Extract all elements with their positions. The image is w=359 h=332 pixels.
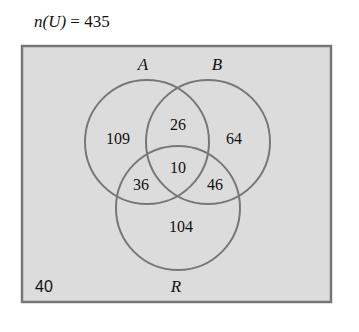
region-a-only: 109	[106, 130, 130, 147]
venn-diagram: A B R 109 26 64 10 36 46 104 40	[0, 0, 359, 332]
region-r-only: 104	[169, 218, 193, 235]
set-b-label: B	[212, 55, 223, 74]
region-outside: 40	[35, 278, 53, 295]
region-a-b-r: 10	[170, 159, 186, 176]
region-b-only: 64	[226, 130, 242, 147]
region-a-and-r-only: 36	[133, 176, 149, 193]
region-a-and-b-only: 26	[170, 116, 186, 133]
set-a-label: A	[137, 55, 149, 74]
set-r-label: R	[170, 277, 182, 296]
region-b-and-r-only: 46	[207, 176, 223, 193]
